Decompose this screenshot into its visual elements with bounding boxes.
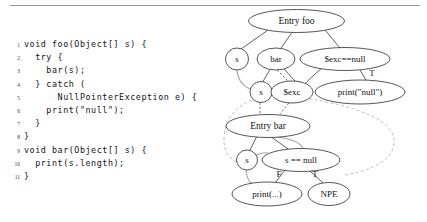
edge-label-t_cond: T: [312, 169, 318, 179]
node-label: $exc: [284, 87, 301, 97]
node-label: $exc==null: [324, 54, 366, 64]
node-label: s == null: [285, 155, 318, 165]
edge-label-f_cond: F: [276, 169, 281, 179]
graph-node-exc_is_null[interactable]: $exc==null: [300, 48, 390, 71]
graph-edge: [246, 170, 252, 184]
graph-edge: [281, 33, 292, 49]
graph-edge: [272, 138, 288, 150]
graph-edge: [250, 136, 257, 150]
graph-edge: [284, 69, 295, 81]
graph-node-s_call[interactable]: s: [250, 82, 272, 103]
graph-node-s_eq_null[interactable]: s == null: [262, 149, 340, 172]
graph-node-print_dots[interactable]: print(...): [232, 182, 302, 206]
graph-edge: [237, 70, 250, 89]
node-label: print("null"): [338, 87, 382, 97]
node-label: NPE: [320, 189, 338, 199]
control-flow-graph: Entry foosbar$exc==nulls$excprint("null"…: [0, 0, 427, 222]
graph-edge: [360, 70, 366, 80]
graph-node-s_foo[interactable]: s: [226, 48, 249, 70]
graph-node-s_bar[interactable]: s: [237, 150, 258, 170]
node-label: bar: [270, 54, 282, 64]
graph-node-print_null[interactable]: print("null"): [315, 80, 405, 104]
edge-label-t_exc: T: [369, 68, 375, 78]
node-label: s: [245, 155, 249, 165]
graph-edge: [304, 68, 322, 85]
node-label: Entry bar: [250, 121, 286, 131]
graph-node-entry_bar[interactable]: Entry bar: [226, 115, 310, 138]
graph-node-exc[interactable]: $exc: [271, 81, 313, 103]
graph-edge: [280, 103, 289, 114]
graph-edge: [325, 30, 340, 48]
graph-edge: [263, 70, 270, 82]
figure-root: 1void foo(Object[] s) {2 try {3 bar(s);4…: [0, 0, 427, 222]
graph-edge: [241, 30, 268, 49]
node-label: s: [259, 87, 263, 97]
node-label: print(...): [252, 189, 282, 199]
graph-node-entry_foo[interactable]: Entry foo: [249, 10, 345, 33]
node-label: s: [235, 54, 239, 64]
graph-edge: [277, 137, 303, 148]
node-label: Entry foo: [278, 16, 314, 26]
graph-node-bar[interactable]: bar: [257, 48, 295, 70]
graph-node-npe[interactable]: NPE: [308, 183, 350, 206]
